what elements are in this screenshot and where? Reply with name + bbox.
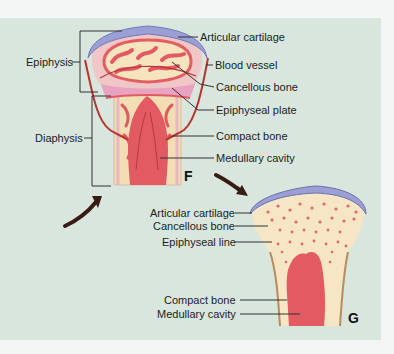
figure-letter-g: G	[348, 310, 359, 326]
bone-g-illustration	[250, 186, 366, 326]
label-epiphysis: Epiphysis	[26, 56, 73, 68]
label-medullary-cavity-f: Medullary cavity	[216, 152, 295, 164]
label-epiphyseal-plate: Epiphyseal plate	[216, 104, 297, 116]
label-cancellous-bone-g: Cancellous bone	[153, 220, 235, 232]
label-diaphysis: Diaphysis	[35, 132, 83, 144]
label-medullary-cavity-g: Medullary cavity	[157, 308, 236, 320]
label-compact-bone-f: Compact bone	[216, 130, 288, 142]
label-articular-cartilage-f: Articular cartilage	[200, 31, 285, 43]
label-epiphyseal-line: Epiphyseal line	[162, 236, 236, 248]
figure-letter-f: F	[184, 168, 193, 184]
label-articular-cartilage-g: Articular cartilage	[150, 207, 235, 219]
label-cancellous-bone-f: Cancellous bone	[216, 81, 298, 93]
bone-f-illustration	[85, 26, 208, 185]
label-compact-bone-g: Compact bone	[164, 294, 236, 306]
label-blood-vessel: Blood vessel	[215, 59, 277, 71]
